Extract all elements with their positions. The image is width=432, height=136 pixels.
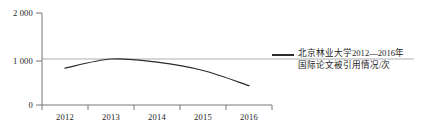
y-axis-label-2000: 2 000 — [0, 8, 33, 18]
x-axis-label-2015: 2015 — [183, 112, 223, 122]
y-axis-label-1000: 1 000 — [0, 56, 33, 66]
x-axis-label-2014: 2014 — [137, 112, 177, 122]
legend-label: 北京林业大学2012—2016年 国际论文被引用情况/次 — [298, 48, 404, 71]
x-axis-label-2012: 2012 — [45, 112, 85, 122]
x-axis-label-2013: 2013 — [91, 112, 131, 122]
legend-line-swatch — [272, 54, 294, 56]
legend-label-line-1: 北京林业大学2012—2016年 — [298, 48, 404, 60]
legend-label-line-2: 国际论文被引用情况/次 — [298, 60, 404, 72]
chart-figure: 2 000 1 000 0 2012 2013 2014 2015 2016 北… — [0, 0, 432, 136]
x-axis-label-2016: 2016 — [229, 112, 269, 122]
y-axis-label-0: 0 — [0, 100, 33, 110]
chart-legend: 北京林业大学2012—2016年 国际论文被引用情况/次 — [272, 48, 404, 71]
series-line-citations — [65, 59, 249, 86]
